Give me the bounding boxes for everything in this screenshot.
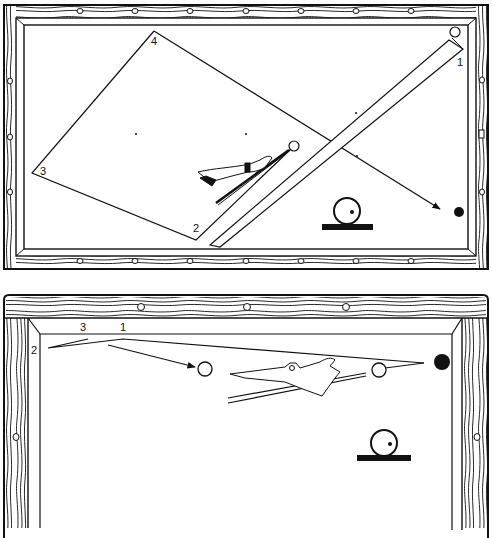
table-bottom: 2 3 1 (4, 295, 488, 538)
billiards-diagram: 4 1 3 2 (0, 0, 492, 538)
left-rail-bottom-table (5, 318, 28, 528)
rail-label-2: 2 (31, 344, 37, 356)
right-rail-bottom-table (462, 318, 487, 528)
corner-label-2: 2 (193, 222, 199, 234)
rail-label-3: 3 (80, 321, 86, 333)
corner-label-1: 1 (457, 56, 463, 68)
rail-label-1: 1 (120, 321, 126, 333)
object-ball-white (450, 27, 460, 37)
corner-label-3: 3 (40, 165, 46, 177)
table-top: 4 1 3 2 (4, 5, 488, 269)
corner-label-4: 4 (151, 35, 157, 47)
object-ball-white-2 (372, 363, 386, 377)
target-ball-black (434, 354, 450, 370)
target-ball-black (454, 207, 464, 217)
object-ball-white-1 (198, 362, 212, 376)
cue-ball (289, 141, 299, 151)
